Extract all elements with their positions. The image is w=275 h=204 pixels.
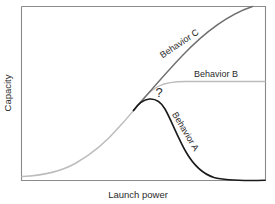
question-mark-annotation: ? xyxy=(155,85,162,100)
curve-behavior-c xyxy=(134,7,253,111)
x-axis-label: Launch power xyxy=(108,189,168,200)
y-axis-label: Capacity xyxy=(2,74,13,111)
curve-behavior-a xyxy=(134,99,266,181)
curve-behavior-b xyxy=(134,82,266,111)
curve-label-behavior-b: Behavior B xyxy=(194,69,238,79)
capacity-vs-launch-power-figure: Capacity Launch power Behavior C Behavio… xyxy=(0,0,275,204)
plot-frame xyxy=(22,7,266,181)
axis-frame-box xyxy=(22,7,266,181)
curve-label-behavior-a: Behavior A xyxy=(170,110,201,152)
curve-shared-rise xyxy=(22,111,134,177)
plot-canvas: Capacity Launch power Behavior C Behavio… xyxy=(0,0,275,204)
